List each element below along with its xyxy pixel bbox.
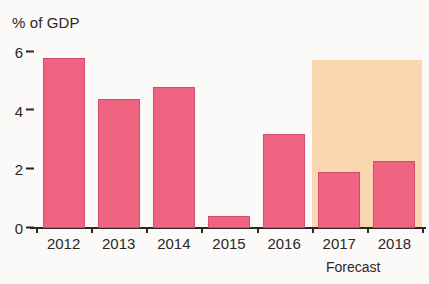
- bar-2015: [208, 216, 250, 228]
- bar-2012: [43, 58, 85, 228]
- x-tick-mark: [201, 229, 203, 233]
- forecast-caption: Forecast: [326, 259, 380, 275]
- y-axis-tick-label: 2: [15, 161, 23, 178]
- x-tick-mark: [257, 229, 259, 233]
- x-tick-mark: [146, 229, 148, 233]
- bar-2018: [373, 161, 415, 228]
- y-axis-tick-2: 2: [15, 161, 34, 178]
- x-axis-label-2015: 2015: [201, 235, 256, 252]
- y-axis-tick-dash: [26, 50, 34, 52]
- plot-area: [36, 44, 426, 230]
- y-axis-tick-dash: [26, 109, 34, 111]
- y-axis-tick-label: 0: [15, 220, 23, 237]
- x-axis-label-2016: 2016: [257, 235, 312, 252]
- y-axis-tick-label: 4: [15, 102, 23, 119]
- y-axis-tick-6: 6: [15, 44, 34, 61]
- x-tick-mark: [312, 229, 314, 233]
- x-axis-label-2018: 2018: [367, 235, 422, 252]
- bar-2016: [263, 134, 305, 228]
- x-axis-label-2013: 2013: [91, 235, 146, 252]
- x-axis-label-2014: 2014: [146, 235, 201, 252]
- x-axis-label-2017: 2017: [312, 235, 367, 252]
- y-axis: 0246: [0, 0, 34, 284]
- x-tick-mark: [367, 229, 369, 233]
- y-axis-tick-4: 4: [15, 102, 34, 119]
- y-axis-tick-dash: [26, 167, 34, 169]
- bar-chart: % of GDP 0246 Forecast 20122013201420152…: [0, 0, 429, 284]
- x-tick-mark: [91, 229, 93, 233]
- bar-2013: [98, 99, 140, 228]
- y-axis-tick-label: 6: [15, 44, 23, 61]
- x-tick-mark: [422, 229, 424, 233]
- x-tick-mark: [36, 229, 38, 233]
- bar-2017: [318, 172, 360, 228]
- bar-2014: [153, 87, 195, 228]
- x-axis-label-2012: 2012: [36, 235, 91, 252]
